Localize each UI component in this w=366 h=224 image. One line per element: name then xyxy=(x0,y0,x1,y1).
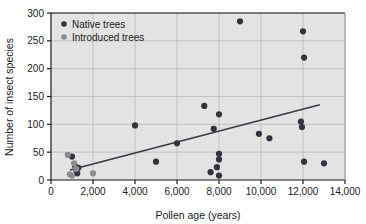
data-point xyxy=(216,111,222,117)
legend-label: Introduced trees xyxy=(72,32,144,43)
data-point xyxy=(214,164,220,170)
y-tick-label: 100 xyxy=(27,119,44,130)
data-point xyxy=(65,152,71,158)
y-tick-label: 50 xyxy=(33,147,45,158)
data-point xyxy=(174,140,180,146)
y-axis-ticks: 050100150200250300 xyxy=(27,8,51,186)
x-tick-label: 2,000 xyxy=(80,186,105,197)
data-point xyxy=(321,160,327,166)
data-point xyxy=(300,28,306,34)
y-tick-label: 150 xyxy=(27,91,44,102)
legend-marker xyxy=(61,21,67,27)
data-point xyxy=(299,124,305,130)
data-point xyxy=(201,103,207,109)
scatter-plot-figure: 02,0004,0006,0008,00010,00012,00014,000 … xyxy=(0,0,366,224)
data-point xyxy=(216,156,222,162)
x-tick-label: 10,000 xyxy=(246,186,277,197)
x-tick-label: 14,000 xyxy=(330,186,361,197)
data-point xyxy=(216,151,222,157)
x-tick-label: 4,000 xyxy=(122,186,147,197)
chart-canvas: 02,0004,0006,0008,00010,00012,00014,000 … xyxy=(0,0,366,224)
data-point xyxy=(266,135,272,141)
data-point xyxy=(301,159,307,165)
data-point xyxy=(298,118,304,124)
data-point xyxy=(69,172,75,178)
y-tick-label: 250 xyxy=(27,35,44,46)
data-point xyxy=(153,159,159,165)
data-point xyxy=(71,160,77,166)
data-point xyxy=(90,170,96,176)
y-tick-label: 300 xyxy=(27,8,44,19)
x-tick-label: 12,000 xyxy=(288,186,319,197)
data-point xyxy=(208,169,214,175)
y-tick-label: 200 xyxy=(27,63,44,74)
legend-marker xyxy=(61,34,67,40)
y-axis-label: Number of insect species xyxy=(3,38,15,156)
x-axis-ticks: 02,0004,0006,0008,00010,00012,00014,000 xyxy=(48,180,361,197)
y-tick-label: 0 xyxy=(38,175,44,186)
legend-label: Native trees xyxy=(72,19,125,30)
data-point xyxy=(237,18,243,24)
x-tick-label: 8,000 xyxy=(206,186,231,197)
data-point xyxy=(301,54,307,60)
x-axis-label: Pollen age (years) xyxy=(155,209,240,221)
data-point xyxy=(132,122,138,128)
data-point xyxy=(73,166,79,172)
data-point xyxy=(216,172,222,178)
data-point xyxy=(256,131,262,137)
x-tick-label: 6,000 xyxy=(164,186,189,197)
data-point xyxy=(211,126,217,132)
x-tick-label: 0 xyxy=(48,186,54,197)
